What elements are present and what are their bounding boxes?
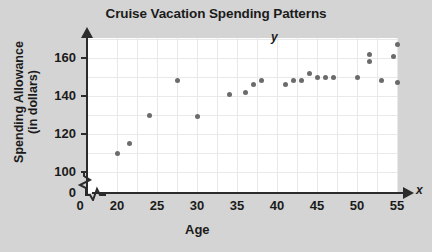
gridline-vertical bbox=[137, 38, 138, 193]
data-point bbox=[379, 78, 384, 83]
y-axis-tick bbox=[81, 57, 88, 59]
data-point bbox=[243, 90, 248, 95]
x-axis-origin-label: 0 bbox=[60, 198, 100, 213]
gridline-vertical bbox=[397, 38, 398, 193]
x-axis-tick-label: 50 bbox=[337, 198, 377, 213]
data-point bbox=[283, 82, 288, 87]
x-axis-tick-label: 35 bbox=[217, 198, 257, 213]
x-axis-tick-label: 55 bbox=[377, 198, 417, 213]
gridline-horizontal bbox=[87, 77, 398, 78]
x-axis-tick-label: 20 bbox=[97, 198, 137, 213]
y-axis-tick-label: 120 bbox=[42, 126, 76, 141]
data-point bbox=[127, 141, 132, 146]
data-point bbox=[391, 54, 396, 59]
data-point bbox=[367, 52, 372, 57]
gridline-horizontal bbox=[87, 115, 398, 116]
gridline-vertical bbox=[357, 38, 358, 193]
gridline-vertical bbox=[237, 38, 238, 193]
gridline-vertical bbox=[217, 38, 218, 193]
gridline-horizontal bbox=[87, 58, 398, 59]
gridline-horizontal bbox=[87, 134, 398, 135]
gridline-vertical bbox=[297, 38, 298, 193]
data-point bbox=[115, 151, 120, 156]
y-axis-title: Spending Allowance (in dollars) bbox=[12, 32, 40, 172]
data-point bbox=[147, 113, 152, 118]
x-axis-tick-label: 25 bbox=[137, 198, 177, 213]
gridline-vertical bbox=[317, 38, 318, 193]
gridline-vertical bbox=[377, 38, 378, 193]
x-axis-tick-label: 40 bbox=[257, 198, 297, 213]
gridline-vertical bbox=[117, 38, 118, 193]
data-point bbox=[323, 75, 328, 80]
gridline-vertical bbox=[177, 38, 178, 193]
y-axis-tick bbox=[81, 171, 88, 173]
data-point bbox=[307, 71, 312, 76]
y-axis-title-line1: Spending Allowance bbox=[12, 32, 26, 172]
y-axis-tick-label: 100 bbox=[42, 164, 76, 179]
gridline-horizontal bbox=[87, 39, 398, 40]
x-axis-line bbox=[92, 192, 404, 194]
data-point bbox=[299, 78, 304, 83]
data-point bbox=[315, 75, 320, 80]
data-point bbox=[227, 92, 232, 97]
gridline-vertical bbox=[337, 38, 338, 193]
y-axis-title-line2: (in dollars) bbox=[26, 32, 40, 172]
x-axis-tick-label: 45 bbox=[297, 198, 337, 213]
y-axis-arrowhead bbox=[81, 27, 93, 38]
data-point bbox=[395, 42, 400, 47]
gridline-horizontal bbox=[87, 96, 398, 97]
data-point bbox=[251, 82, 256, 87]
data-point bbox=[195, 114, 200, 119]
data-point bbox=[395, 80, 400, 85]
y-axis-variable-label: y bbox=[271, 30, 278, 44]
data-point bbox=[291, 78, 296, 83]
scatter-plot-figure: Cruise Vacation Spending Patterns y x 10… bbox=[0, 0, 432, 252]
x-axis-tick-label: 30 bbox=[177, 198, 217, 213]
data-point bbox=[367, 59, 372, 64]
plot-area bbox=[87, 38, 398, 193]
gridline-horizontal bbox=[87, 153, 398, 154]
data-point bbox=[355, 75, 360, 80]
y-axis-tick-label: 140 bbox=[42, 88, 76, 103]
y-axis-tick bbox=[81, 133, 88, 135]
x-axis-variable-label: x bbox=[416, 183, 423, 197]
y-axis-tick-label: 160 bbox=[42, 50, 76, 65]
data-point bbox=[175, 78, 180, 83]
x-axis-title: Age bbox=[185, 222, 210, 237]
data-point bbox=[331, 75, 336, 80]
gridline-vertical bbox=[257, 38, 258, 193]
gridline-horizontal bbox=[87, 172, 398, 173]
gridline-vertical bbox=[157, 38, 158, 193]
data-point bbox=[259, 78, 264, 83]
gridline-vertical bbox=[277, 38, 278, 193]
chart-title: Cruise Vacation Spending Patterns bbox=[0, 6, 432, 21]
y-axis-tick bbox=[81, 95, 88, 97]
